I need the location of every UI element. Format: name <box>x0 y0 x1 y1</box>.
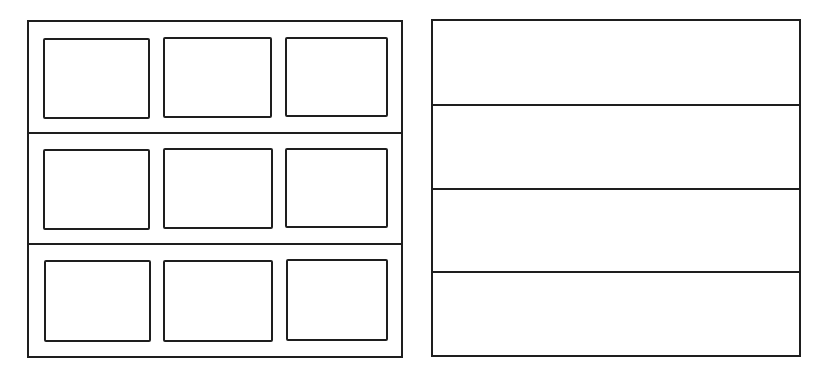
grid-cell-r2-c1 <box>43 149 150 230</box>
band-divider <box>433 271 799 273</box>
grid-cell-r2-c3 <box>285 148 388 228</box>
grid-cell-r2-c2 <box>163 148 273 229</box>
band-divider <box>433 104 799 106</box>
grid-cell-r1-c2 <box>163 37 272 118</box>
grid-cell-r1-c1 <box>43 38 150 119</box>
grid-cell-r3-c2 <box>163 260 273 342</box>
grid-cell-r1-c3 <box>285 37 388 117</box>
row-divider <box>29 243 401 245</box>
grid-cell-r3-c3 <box>286 259 388 341</box>
right-banded-frame <box>431 19 801 357</box>
row-divider <box>29 132 401 134</box>
band-divider <box>433 188 799 190</box>
grid-cell-r3-c1 <box>44 260 151 342</box>
